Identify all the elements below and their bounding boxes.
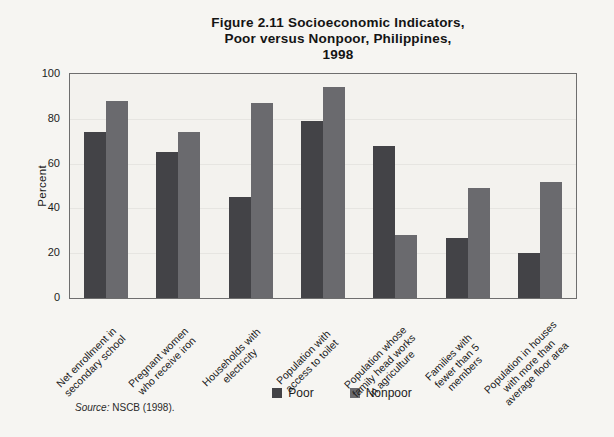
- y-tick-label-60: 60: [0, 157, 60, 170]
- bar-poor-2: [156, 152, 178, 298]
- bar-nonpoor-4: [323, 87, 345, 298]
- bar-nonpoor-5: [395, 235, 417, 298]
- bar-nonpoor-2: [178, 132, 200, 298]
- bar-nonpoor-1: [106, 101, 128, 298]
- y-tick-label-80: 80: [0, 112, 60, 125]
- bar-poor-3: [229, 197, 251, 298]
- bar-poor-5: [373, 146, 395, 298]
- bar-poor-4: [301, 121, 323, 298]
- plot-area: [69, 73, 577, 299]
- figure-title: Figure 2.11 Socioeconomic Indicators, Po…: [84, 15, 592, 63]
- bar-nonpoor-3: [251, 103, 273, 298]
- y-axis-title-wrap: Percent: [34, 73, 50, 299]
- figure-root: Figure 2.11 Socioeconomic Indicators, Po…: [0, 0, 614, 437]
- bar-poor-6: [446, 238, 468, 298]
- bar-poor-7: [518, 253, 540, 298]
- bar-poor-1: [84, 132, 106, 298]
- y-tick-label-100: 100: [0, 67, 60, 80]
- y-tick-label-20: 20: [0, 246, 60, 259]
- bar-nonpoor-6: [468, 188, 490, 298]
- bar-nonpoor-7: [540, 182, 562, 298]
- y-tick-label-0: 0: [0, 291, 60, 304]
- source-prefix: Source:: [75, 402, 109, 413]
- y-tick-label-40: 40: [0, 201, 60, 214]
